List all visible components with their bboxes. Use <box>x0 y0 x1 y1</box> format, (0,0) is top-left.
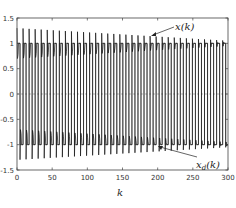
y-tick-label: -1 <box>7 141 14 149</box>
x-tick-label: 100 <box>81 174 94 182</box>
x-tick-label: 50 <box>48 174 57 182</box>
xd-annotation-tail: (k) <box>206 159 220 170</box>
y-tick-label: -1.5 <box>0 167 14 175</box>
y-tick-label: 0 <box>10 91 14 99</box>
chart: 050100150200250300-1.5-1-0.500.511.5 x(k… <box>0 0 236 208</box>
x-axis-label: k <box>117 187 123 198</box>
xd-annotation-arrow <box>160 147 197 157</box>
x-tick-label: 150 <box>116 174 129 182</box>
plot-series <box>17 28 228 160</box>
y-tick-label: 0.5 <box>3 65 14 73</box>
y-tick-label: -0.5 <box>0 116 14 124</box>
x-tick-label: 200 <box>151 174 164 182</box>
x-annotation-label: x(k) <box>175 21 195 32</box>
x-annotation-arrowhead-icon <box>151 32 156 36</box>
y-tick-label: 1.5 <box>3 15 14 23</box>
x-annotation-arrow <box>153 27 174 35</box>
xd-annotation-arrowhead-icon <box>158 146 163 150</box>
y-tick-label: 1 <box>10 40 14 48</box>
x-tick-label: 300 <box>221 174 234 182</box>
x-tick-label: 0 <box>15 174 19 182</box>
x-tick-label: 250 <box>186 174 199 182</box>
